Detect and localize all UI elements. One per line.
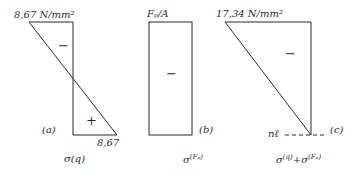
diagram-b-caption: σ(Fₚ) (183, 153, 203, 165)
sigma-symbol: σ (276, 154, 283, 165)
sigma-symbol: σ (301, 154, 308, 165)
diagram-a-negative-sign: − (58, 38, 69, 53)
caption-sup: (q) (71, 153, 85, 164)
caption-sup: (Fₚ) (190, 153, 203, 161)
sigma-symbol: σ (64, 153, 71, 164)
diagram-b-negative-sign: − (166, 66, 177, 81)
sigma-symbol: σ (183, 154, 190, 165)
plus-symbol: + (293, 154, 301, 165)
diagram-a-bottom-value: 8,67 (97, 137, 119, 148)
caption-sup: (Fₚ) (308, 153, 321, 161)
diagram-a-positive-sign: + (86, 113, 97, 128)
diagram-c-shape (225, 22, 326, 135)
diagram-c-tag: (c) (330, 124, 343, 135)
diagram-a-caption: σ(q) (64, 153, 85, 164)
caption-sup: (q) (283, 153, 293, 161)
diagram-c-caption: σ(q)+σ(Fₚ) (276, 153, 321, 165)
diagram-c-negative-sign: − (285, 46, 296, 61)
neutral-line-label: nℓ (268, 128, 279, 139)
diagram-c-top-value: 17,34 N/mm² (216, 8, 283, 19)
diagram-a-shape (29, 22, 117, 135)
diagram-b-tag: (b) (199, 124, 213, 135)
diagram-a-tag: (a) (42, 124, 56, 135)
diagram-a-top-value: 8,67 N/mm² (14, 9, 75, 20)
diagram-b-top-value: Fₚ/A (147, 8, 169, 19)
